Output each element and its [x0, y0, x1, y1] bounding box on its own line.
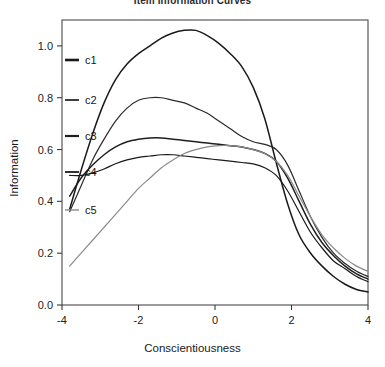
curve-c3: [70, 138, 368, 279]
x-axis-ticks: -4-2024: [57, 305, 371, 326]
y-tick-label: 0.4: [38, 195, 53, 207]
legend-label-c2: c2: [85, 94, 97, 106]
item-information-curves-figure: Item Information Curves -4-2024 0.00.20.…: [0, 0, 385, 367]
x-tick-label: 2: [288, 314, 294, 326]
x-tick-label: 4: [365, 314, 371, 326]
legend-label-c4: c4: [85, 166, 97, 178]
y-tick-label: 0.2: [38, 247, 53, 259]
chart-legend: c1c2c3c4c5: [65, 54, 97, 216]
x-tick-label: -4: [57, 314, 67, 326]
y-axis-title: Information: [8, 139, 20, 197]
y-tick-label: 0.0: [38, 299, 53, 311]
x-tick-label: 0: [212, 314, 218, 326]
chart-title: Item Information Curves: [0, 0, 385, 6]
chart-canvas: -4-2024 0.00.20.40.60.81.0 c1c2c3c4c5 Co…: [0, 0, 385, 367]
data-curves: [70, 30, 368, 292]
legend-label-c3: c3: [85, 130, 97, 142]
y-tick-label: 1.0: [38, 40, 53, 52]
y-axis-ticks: 0.00.20.40.60.81.0: [38, 40, 62, 311]
x-axis-title: Conscientiousness: [144, 342, 241, 354]
legend-label-c5: c5: [85, 204, 97, 216]
curve-c4: [70, 155, 368, 282]
x-tick-label: -2: [134, 314, 144, 326]
y-tick-label: 0.6: [38, 144, 53, 156]
y-tick-label: 0.8: [38, 92, 53, 104]
legend-label-c1: c1: [85, 54, 97, 66]
curve-c1: [70, 30, 368, 292]
plot-frame: [62, 20, 368, 305]
